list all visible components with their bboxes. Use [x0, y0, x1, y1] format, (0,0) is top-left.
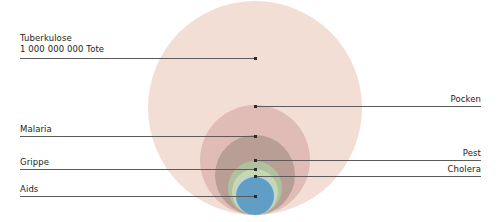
label-pocken[interactable]: Pocken [450, 94, 481, 105]
leader-line-pocken [256, 106, 481, 107]
infographic-canvas: Tuberkulose 1 000 000 000 Tote Malaria G… [0, 0, 501, 222]
leader-dot-malaria [254, 135, 257, 138]
leader-line-tuberkulose [20, 58, 255, 59]
label-aids[interactable]: Aids [20, 184, 38, 195]
label-malaria-name: Malaria [20, 124, 52, 134]
label-tuberkulose-name: Tuberkulose [20, 33, 72, 43]
label-pest[interactable]: Pest [463, 148, 481, 159]
leader-dot-tuberkulose [254, 57, 257, 60]
label-malaria[interactable]: Malaria [20, 124, 52, 135]
leader-line-malaria [20, 136, 256, 137]
label-pocken-name: Pocken [450, 94, 481, 104]
label-grippe[interactable]: Grippe [20, 157, 49, 168]
label-aids-name: Aids [20, 184, 38, 194]
label-grippe-name: Grippe [20, 157, 49, 167]
leader-dot-pocken [254, 105, 257, 108]
leader-line-pest [256, 160, 481, 161]
label-pest-name: Pest [463, 148, 481, 158]
label-cholera-name: Cholera [447, 164, 481, 174]
leader-dot-pest [254, 159, 257, 162]
label-cholera[interactable]: Cholera [447, 164, 481, 175]
leader-dot-aids [254, 195, 257, 198]
leader-dot-grippe [254, 168, 257, 171]
leader-line-aids [20, 196, 256, 197]
leader-dot-cholera [254, 175, 257, 178]
label-tuberkulose[interactable]: Tuberkulose 1 000 000 000 Tote [20, 33, 104, 55]
leader-line-grippe [20, 169, 256, 170]
label-tuberkulose-value: 1 000 000 000 Tote [20, 44, 104, 55]
leader-line-cholera [256, 176, 481, 177]
